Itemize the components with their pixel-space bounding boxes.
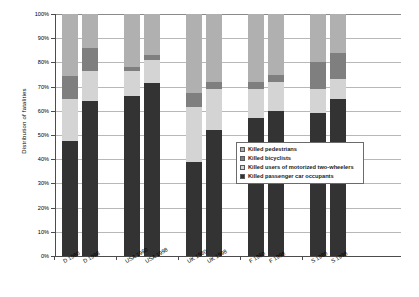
bar-segment-two: [206, 89, 222, 130]
y-axis-tick-label: 90%: [0, 35, 49, 41]
x-axis-labels: D 1980D 1998USA 1980USA 1998UK 1980UK 19…: [55, 259, 400, 297]
bar-segment-ped: [124, 14, 140, 67]
legend-swatch-two-wheelers-icon: [240, 165, 245, 170]
bar-segment-two: [330, 79, 346, 98]
bar-segment-ped: [144, 14, 160, 55]
bar-column: [186, 14, 202, 256]
bar-segment-ped: [310, 14, 326, 62]
bar-segment-cyc: [310, 62, 326, 89]
bar-column: [206, 14, 222, 256]
bar-segment-cyc: [330, 53, 346, 80]
bar-segment-ped: [268, 14, 284, 75]
bar-column: [310, 14, 326, 256]
y-axis-tick-label: 60%: [0, 108, 49, 114]
bar-segment-ped: [248, 14, 264, 82]
y-axis-ticks: 100%90%80%70%60%50%40%30%20%10%0%: [0, 0, 55, 297]
bar-segment-two: [186, 107, 202, 161]
bar-segment-cars: [248, 118, 264, 256]
plot-area: [55, 14, 401, 257]
y-axis-tick-label: 70%: [0, 84, 49, 90]
bar-segment-ped: [82, 14, 98, 48]
y-axis-tick-label: 0%: [0, 253, 49, 259]
bar-column: [268, 14, 284, 256]
bar-segment-cyc: [206, 82, 222, 89]
y-axis-tick-label: 40%: [0, 156, 49, 162]
y-axis-tick-label: 20%: [0, 205, 49, 211]
legend-item-bicyclists: Killed bicyclists: [240, 155, 359, 162]
bar-column: [330, 14, 346, 256]
legend-swatch-bicyclists-icon: [240, 156, 245, 161]
bar-series-container: [56, 14, 401, 256]
bar-segment-cars: [82, 101, 98, 256]
bar-segment-cyc: [62, 76, 78, 99]
bar-segment-two: [268, 82, 284, 111]
y-axis-tick-label: 10%: [0, 229, 49, 235]
legend-item-pedestrians: Killed pedestrians: [240, 146, 359, 153]
bar-segment-two: [124, 71, 140, 96]
bar-column: [82, 14, 98, 256]
bar-segment-two: [144, 60, 160, 83]
legend-item-two-wheelers: Killed users of motorized two-wheelers: [240, 164, 359, 171]
y-axis-tick-label: 80%: [0, 59, 49, 65]
bar-segment-two: [248, 89, 264, 118]
legend-swatch-car-occupants-icon: [240, 174, 245, 179]
y-axis-tick-label: 30%: [0, 180, 49, 186]
y-axis-tick-label: 100%: [0, 11, 49, 17]
bar-column: [144, 14, 160, 256]
bar-segment-cars: [144, 83, 160, 256]
bar-column: [62, 14, 78, 256]
legend-label-bicyclists: Killed bicyclists: [248, 155, 291, 162]
chart-legend: Killed pedestrians Killed bicyclists Kil…: [236, 142, 364, 184]
bar-segment-two: [82, 71, 98, 101]
bar-segment-ped: [206, 14, 222, 82]
bar-segment-two: [62, 99, 78, 141]
legend-item-car-occupants: Killed passenger car occupants: [240, 173, 359, 180]
bar-segment-cars: [310, 113, 326, 256]
y-axis-tick-label: 50%: [0, 132, 49, 138]
bar-segment-cars: [186, 162, 202, 256]
bar-segment-ped: [186, 14, 202, 93]
bar-segment-two: [310, 89, 326, 113]
bar-segment-ped: [62, 14, 78, 76]
fatalities-distribution-chart: Distribution of fatalities 100%90%80%70%…: [0, 0, 419, 297]
bar-segment-cyc: [82, 48, 98, 71]
bar-segment-cyc: [124, 67, 140, 71]
legend-label-pedestrians: Killed pedestrians: [248, 146, 297, 153]
legend-label-car-occupants: Killed passenger car occupants: [248, 173, 334, 180]
bar-segment-cars: [124, 96, 140, 256]
bar-segment-cars: [62, 141, 78, 256]
bar-segment-cyc: [186, 93, 202, 108]
bar-column: [248, 14, 264, 256]
bar-segment-cyc: [144, 55, 160, 60]
legend-swatch-pedestrians-icon: [240, 147, 245, 152]
bar-segment-cars: [206, 130, 222, 256]
bar-segment-cyc: [268, 75, 284, 82]
bar-segment-cyc: [248, 82, 264, 89]
legend-label-two-wheelers: Killed users of motorized two-wheelers: [248, 164, 354, 171]
bar-column: [124, 14, 140, 256]
bar-segment-ped: [330, 14, 346, 53]
